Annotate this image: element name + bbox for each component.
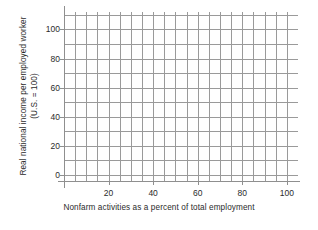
gridline-vertical	[153, 12, 154, 182]
gridline-vertical	[175, 12, 176, 182]
y-axis-tick-mark	[59, 59, 64, 60]
gridline-horizontal	[64, 88, 298, 89]
x-axis-tick-label: 100	[267, 188, 307, 198]
gridline-vertical	[109, 12, 110, 182]
x-axis-tick-mark	[287, 181, 288, 185]
x-axis-title: Nonfarm activities as a percent of total…	[0, 203, 318, 212]
x-axis-tick-label: 40	[133, 188, 173, 198]
x-axis-tick-label: 20	[89, 188, 129, 198]
gridline-vertical	[287, 12, 288, 182]
gridline-vertical	[242, 12, 243, 182]
gridline-vertical	[131, 12, 132, 182]
y-axis-tick-mark	[59, 88, 64, 89]
gridline-horizontal	[64, 102, 298, 103]
gridline-horizontal	[64, 117, 298, 118]
gridline-vertical	[209, 12, 210, 182]
x-axis-line	[58, 181, 300, 182]
gridline-horizontal	[64, 44, 298, 45]
gridline-vertical	[253, 12, 254, 182]
y-axis-tick-mark	[59, 117, 64, 118]
gridline-vertical	[220, 12, 221, 182]
gridline-horizontal	[64, 59, 298, 60]
gridline-horizontal	[64, 29, 298, 30]
y-axis-tick-mark	[59, 29, 64, 30]
gridline-vertical	[142, 12, 143, 182]
gridline-vertical	[231, 12, 232, 182]
x-axis-tick-mark	[242, 181, 243, 185]
y-axis-tick-mark	[59, 146, 64, 147]
gridline-vertical	[187, 12, 188, 182]
y-axis-tick-label: 80	[36, 54, 60, 64]
gridline-horizontal	[64, 175, 298, 176]
gridline-vertical	[164, 12, 165, 182]
x-axis-tick-label: 60	[178, 188, 218, 198]
y-axis-title-line-1: Real national income per employed worker	[18, 16, 29, 175]
gridline-vertical	[276, 12, 277, 182]
x-axis-tick-mark	[153, 181, 154, 185]
y-axis-tick-label: 60	[36, 83, 60, 93]
x-axis-tick-mark	[198, 181, 199, 185]
gridline-vertical	[97, 12, 98, 182]
gridline-horizontal	[64, 146, 298, 147]
y-axis-line	[64, 6, 65, 188]
gridline-horizontal	[64, 131, 298, 132]
gridline-vertical	[198, 12, 199, 182]
x-axis-tick-label: 80	[222, 188, 262, 198]
gridline-horizontal	[64, 15, 298, 16]
y-axis-tick-labels: 020406080100	[36, 12, 60, 182]
y-axis-tick-mark	[59, 175, 64, 176]
plot-area	[64, 12, 298, 182]
gridline-vertical	[120, 12, 121, 182]
gridline-horizontal	[64, 160, 298, 161]
gridline-vertical	[75, 12, 76, 182]
y-axis-tick-label: 100	[36, 24, 60, 34]
gridline-vertical	[86, 12, 87, 182]
chart-figure: Real national income per employed worker…	[0, 0, 318, 230]
y-axis-tick-label: 20	[36, 141, 60, 151]
gridline-horizontal	[64, 73, 298, 74]
y-axis-tick-label: 0	[36, 170, 60, 180]
y-axis-tick-label: 40	[36, 112, 60, 122]
x-axis-tick-mark	[109, 181, 110, 185]
gridline-vertical	[265, 12, 266, 182]
